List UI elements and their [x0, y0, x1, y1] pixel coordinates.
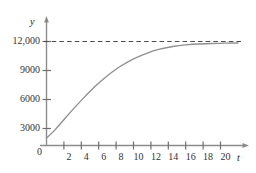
x-axis [40, 143, 249, 148]
y-tick-label-3000: 3000 [0, 123, 40, 133]
x-tick-label-2: 2 [61, 152, 77, 162]
x-tick-label-20: 20 [215, 152, 237, 162]
x-tick-label-6: 6 [96, 152, 112, 162]
x-axis-name: t [237, 153, 240, 163]
y-tick-label-12000: 12,000 [0, 36, 40, 46]
growth-curve [47, 43, 239, 138]
y-axis-name: y [30, 17, 34, 27]
y-tick-label-9000: 9000 [0, 65, 40, 75]
y-axis [44, 16, 49, 146]
y-tick-label-6000: 6000 [0, 94, 40, 104]
chart-figure: y t 0 12,000 9000 6000 3000 2 4 6 8 10 1… [0, 0, 256, 173]
x-tick-label-4: 4 [78, 152, 94, 162]
origin-tick-label: 0 [37, 147, 42, 157]
